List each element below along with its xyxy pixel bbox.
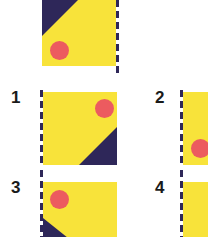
reference-square (42, 0, 116, 66)
option-label: 4 (155, 178, 164, 198)
fold-line-dashed (116, 0, 119, 76)
option-square (43, 182, 117, 237)
red-dot (95, 99, 114, 118)
navy-triangle (42, 0, 78, 36)
navy-triangle (79, 127, 117, 165)
red-dot (191, 139, 208, 158)
option-label: 3 (11, 178, 20, 198)
option-square (183, 182, 208, 237)
option-label: 1 (11, 88, 20, 108)
navy-triangle (43, 218, 73, 237)
red-dot (50, 190, 69, 209)
red-dot (50, 41, 69, 60)
option-square (183, 92, 208, 165)
option-square (43, 92, 117, 165)
option-label: 2 (155, 88, 164, 108)
